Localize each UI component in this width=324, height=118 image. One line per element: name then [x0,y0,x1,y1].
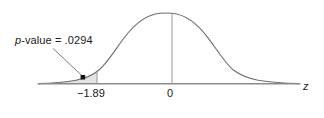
pvalue-annotation-text: -value = .0294 [21,34,92,46]
distribution-plot [0,0,324,118]
x-tick-label-negative-1-89: −1.89 [77,88,105,99]
normal-distribution-figure: p-value = .0294 −1.89 0 z [0,0,324,118]
annotation-marker-dot [81,75,86,80]
annotation-leader-line [53,49,83,77]
x-tick-label-zero: 0 [167,88,173,99]
x-axis-label-z: z [303,81,309,92]
pvalue-annotation-label: p-value = .0294 [15,35,93,46]
normal-curve [38,13,300,84]
